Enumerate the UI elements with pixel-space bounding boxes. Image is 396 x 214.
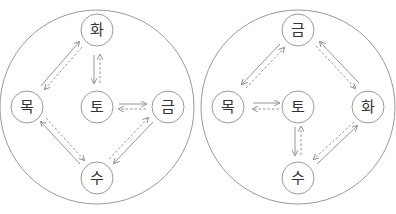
node-label: 토 — [90, 98, 104, 116]
node-right: 금 — [152, 91, 184, 123]
node-label: 화 — [361, 98, 375, 116]
node-label: 목 — [20, 98, 34, 116]
node-label: 금 — [291, 21, 305, 39]
node-center: 토 — [81, 91, 113, 123]
node-label: 수 — [291, 169, 305, 187]
right-diagram: 금 목 토 화 수 — [201, 10, 395, 204]
node-left: 목 — [212, 91, 244, 123]
arrow-metal-to-fire — [316, 46, 355, 88]
node-right: 화 — [352, 91, 384, 123]
node-bottom: 수 — [282, 162, 314, 194]
node-label: 목 — [221, 98, 235, 116]
arrow-water-to-fire — [317, 126, 357, 164]
node-label: 수 — [90, 169, 104, 187]
arrow-wood-to-metal — [246, 48, 284, 88]
node-label: 화 — [90, 21, 104, 39]
arrow-metal-to-wood — [242, 44, 280, 84]
five-elements-diagrams: 화 목 토 금 수 — [0, 0, 396, 214]
arrow-fire-to-metal — [320, 42, 359, 83]
arrow-metal-to-water — [114, 122, 153, 163]
node-bottom: 수 — [81, 162, 113, 194]
arrow-wood-to-water — [46, 118, 84, 160]
node-left: 목 — [11, 91, 43, 123]
node-label: 토 — [291, 98, 305, 116]
arrow-fire-to-water — [314, 122, 354, 159]
node-center: 토 — [282, 91, 314, 123]
arrow-fire-to-wood — [45, 47, 82, 89]
left-diagram: 화 목 토 금 수 — [0, 10, 194, 204]
arrow-water-to-metal — [109, 118, 148, 159]
node-top: 금 — [282, 14, 314, 46]
node-label: 금 — [161, 98, 175, 116]
arrow-wood-to-fire — [41, 42, 79, 86]
node-top: 화 — [81, 14, 113, 46]
arrow-water-to-wood — [41, 122, 80, 164]
